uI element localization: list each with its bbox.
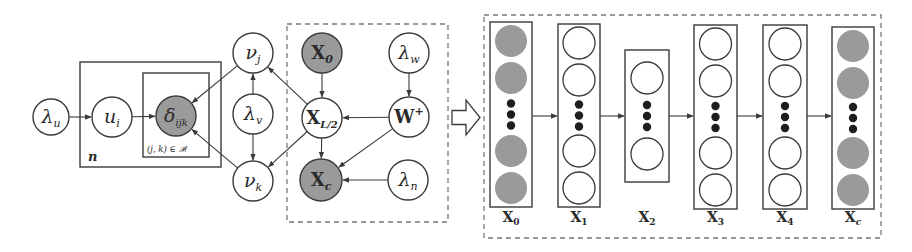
ellipsis-dot (781, 102, 789, 110)
network-dashed-box (484, 15, 881, 238)
layer-Xc: Xc (832, 27, 874, 227)
neuron (700, 174, 732, 206)
neuron (837, 67, 869, 99)
layer-label: X0 (502, 209, 519, 227)
ellipsis-dot (781, 113, 789, 121)
neuron (837, 30, 869, 62)
neuron (837, 137, 869, 169)
node-u_i: ui (92, 97, 132, 137)
edge-X_L2-to-v_k (269, 131, 308, 166)
neuron (769, 65, 801, 97)
neuron (495, 62, 527, 94)
hollow-transition-arrow-icon (452, 100, 480, 135)
layer-X2: X2 (625, 50, 669, 227)
node-lambda_u: λu (33, 99, 69, 135)
edge-W_plus-to-X_c (339, 129, 393, 168)
layer-X3: X3 (694, 25, 737, 227)
layer-label: X1 (570, 209, 587, 227)
neuron (700, 65, 732, 97)
ellipsis-dot (711, 113, 719, 121)
ellipsis-dot (781, 124, 789, 132)
ellipsis-dot (507, 99, 515, 107)
layer-label: X2 (638, 209, 655, 227)
edge-v_k-to-delta_ijk (192, 130, 238, 169)
ellipsis-dot (507, 110, 515, 118)
ellipsis-dot (507, 121, 515, 129)
neuron (631, 138, 663, 170)
ellipsis-dot (849, 103, 857, 111)
neuron (495, 25, 527, 57)
ellipsis-dot (575, 122, 583, 130)
node-lambda_n: λn (388, 160, 428, 200)
ellipsis-dot (575, 111, 583, 119)
layer-X4: X4 (763, 25, 807, 227)
neuron (495, 135, 527, 167)
ellipsis-dot (711, 102, 719, 110)
node-X_L2: XL/2 (302, 98, 342, 138)
neuron (631, 62, 663, 94)
edge-X_L2-to-v_j (268, 67, 307, 104)
ellipsis-dot (575, 100, 583, 108)
ellipsis-dot (643, 112, 651, 120)
node-W_plus: W+ (389, 97, 429, 137)
node-X_c: Xc (300, 159, 342, 201)
ellipsis-dot (849, 114, 857, 122)
neuron (769, 174, 801, 206)
neuron (495, 172, 527, 204)
ellipsis-dot (643, 101, 651, 109)
ellipsis-dot (849, 125, 857, 133)
node-lambda_v: λv (233, 94, 273, 134)
neuron (563, 27, 595, 59)
neuron (700, 28, 732, 60)
plate-label: n (88, 149, 97, 164)
layer-label: Xc (845, 209, 862, 227)
neuron (769, 28, 801, 60)
ellipsis-dot (711, 124, 719, 132)
layer-label: X3 (707, 209, 724, 227)
layer-label: X4 (776, 209, 793, 227)
node-v_k: νk (233, 161, 273, 201)
layer-X1: X1 (558, 24, 600, 227)
ellipsis-dot (643, 123, 651, 131)
neuron (769, 137, 801, 169)
neuron (700, 137, 732, 169)
neuron (563, 135, 595, 167)
figure-canvas: n(j, k) ∈ 𝒫ᵢ λuuiδijkνjλvνkX0XL/2XcλwW+λ… (0, 0, 912, 252)
neuron (837, 174, 869, 206)
plate-label: (j, k) ∈ 𝒫ᵢ (147, 144, 188, 154)
node-v_j: νj (233, 33, 273, 73)
node-X_0: X0 (302, 33, 342, 73)
neuron (563, 172, 595, 204)
edge-v_j-to-delta_ijk (192, 66, 237, 103)
layer-X0: X0 (490, 22, 532, 227)
neuron (563, 64, 595, 96)
node-delta_ijk: δijk (156, 96, 196, 136)
edge-W_plus-to-X_L2 (343, 117, 389, 118)
network-architecture: X0X1X2X3X4Xc (484, 15, 881, 238)
node-lambda_w: λw (389, 33, 429, 73)
